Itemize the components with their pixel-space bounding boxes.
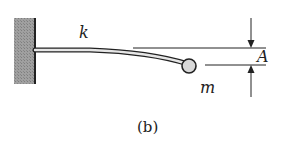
cantilever-diagram: k m A (b) bbox=[0, 0, 299, 143]
flexible-beam bbox=[35, 50, 188, 64]
figure-caption: (b) bbox=[137, 118, 158, 136]
mass-ball bbox=[182, 59, 196, 73]
amplitude-arrow-top bbox=[248, 18, 255, 48]
amplitude-label: A bbox=[255, 47, 269, 66]
mass-label: m bbox=[200, 78, 215, 97]
stiffness-label: k bbox=[79, 23, 89, 42]
amplitude-arrow-bottom bbox=[248, 65, 255, 97]
fixed-wall bbox=[14, 18, 35, 84]
